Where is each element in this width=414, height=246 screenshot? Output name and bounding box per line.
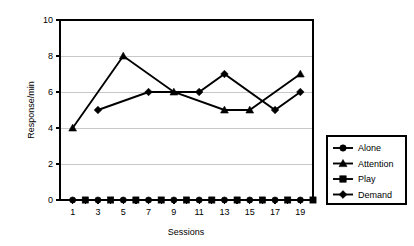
x-tick-label: 15 (245, 207, 255, 217)
legend-item-label: Play (358, 174, 376, 184)
y-tick-label: 0 (48, 195, 53, 205)
line-chart: 0246810 135791113151719 Response/min Ses… (0, 0, 414, 246)
marker-square (259, 197, 265, 203)
marker-square (285, 197, 291, 203)
y-tick-label: 4 (48, 123, 53, 133)
marker-triangle (296, 70, 304, 77)
marker-square (234, 197, 240, 203)
marker-square (209, 197, 215, 203)
y-tick-label: 8 (48, 51, 53, 61)
x-tick-label: 5 (121, 207, 126, 217)
y-tick-label: 6 (48, 87, 53, 97)
marker-square (183, 197, 189, 203)
x-axis-title: Sessions (168, 227, 205, 237)
marker-square (133, 197, 139, 203)
legend-item-label: Alone (358, 143, 381, 153)
x-tick-label: 3 (95, 207, 100, 217)
chart-container: 0246810 135791113151719 Response/min Ses… (0, 0, 414, 246)
marker-square (82, 197, 88, 203)
marker-diamond (94, 106, 102, 114)
marker-square (310, 197, 316, 203)
x-tick-label: 11 (194, 207, 203, 217)
x-tick-label: 17 (270, 207, 280, 217)
y-axis-title: Response/min (26, 81, 36, 139)
marker-circle (340, 145, 346, 151)
marker-square (340, 176, 346, 182)
chart-legend: AloneAttentionPlayDemand (327, 136, 406, 204)
x-tick-label: 1 (70, 207, 75, 217)
legend-item-label: Attention (358, 159, 394, 169)
x-tick-label: 7 (146, 207, 151, 217)
marker-square (158, 197, 164, 203)
marker-diamond (145, 88, 153, 96)
x-tick-label: 9 (171, 207, 176, 217)
x-tick-label: 19 (295, 207, 305, 217)
marker-circle (70, 197, 76, 203)
y-axis-ticks: 0246810 (43, 15, 60, 205)
y-tick-label: 10 (43, 15, 53, 25)
legend-item-label: Demand (358, 190, 392, 200)
y-tick-label: 2 (48, 159, 53, 169)
marker-square (108, 197, 114, 203)
x-tick-label: 13 (219, 207, 229, 217)
